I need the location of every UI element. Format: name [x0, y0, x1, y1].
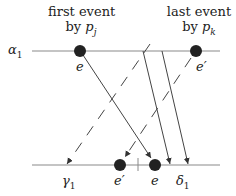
- bottom-event-label-e: e: [151, 174, 159, 187]
- annotation-first-event: first event by pj: [48, 5, 114, 37]
- gamma-label: γ1: [62, 174, 76, 191]
- message-arrow-e: [83, 55, 151, 158]
- alpha-label: α1: [8, 43, 23, 60]
- annotation-last-event-line1: last event: [166, 5, 232, 18]
- message-arrow-dashed-eprime: [125, 58, 191, 157]
- top-event-label-eprime: e′: [196, 60, 207, 73]
- event-dot-bottom-eprime: [114, 159, 126, 171]
- top-event-label-e: e: [76, 60, 84, 73]
- bottom-event-label-eprime: e′: [114, 174, 125, 187]
- annotation-last-event: last event by pk: [166, 5, 232, 37]
- annotation-first-event-line1: first event: [48, 5, 114, 18]
- delta-label: δ1: [176, 174, 190, 191]
- event-dot-bottom-e: [149, 159, 161, 171]
- event-dot-top-e: [74, 45, 86, 57]
- event-dot-top-eprime: [190, 45, 202, 57]
